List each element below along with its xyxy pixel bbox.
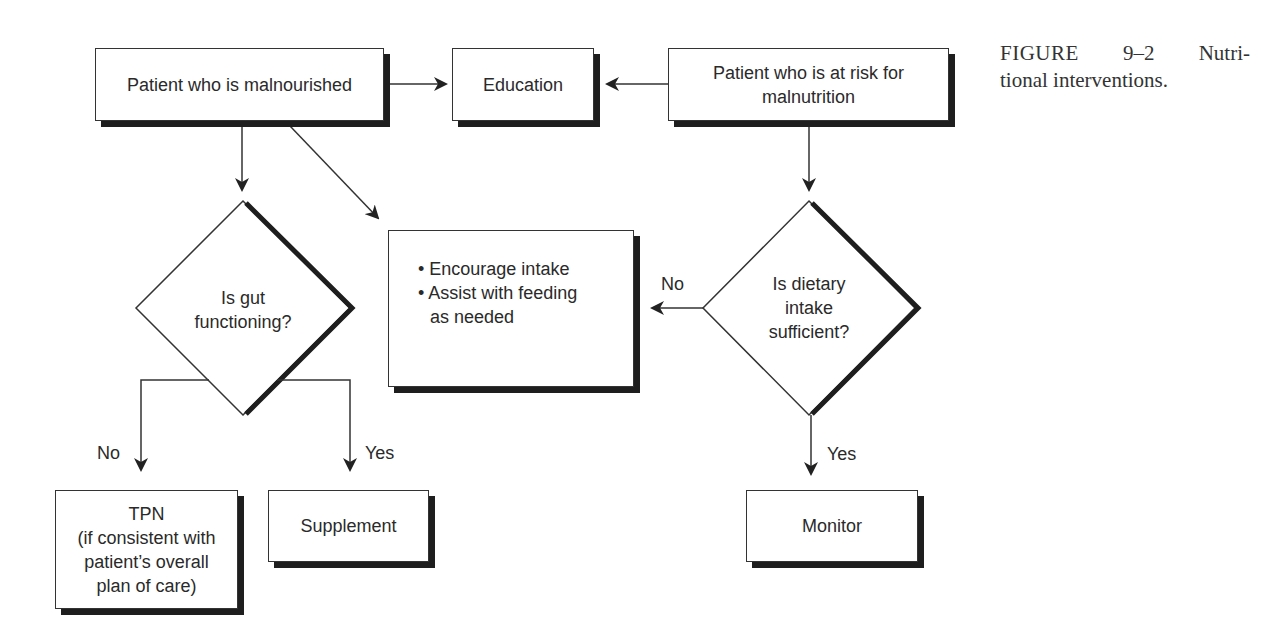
bullet-assist-feeding: • Assist with feeding xyxy=(418,281,577,305)
decision-gut-text: Is gut functioning? xyxy=(183,286,303,334)
figure-label: FIGURE xyxy=(1000,40,1079,67)
node-intake-actions-list: • Encourage intake • Assist with feeding… xyxy=(418,257,577,329)
edge-label-gut-no: No xyxy=(97,443,120,463)
node-tpn-line4: plan of care) xyxy=(96,574,196,598)
arrow-malnourished-to-intake xyxy=(290,126,378,218)
node-patient-malnourished: Patient who is malnourished xyxy=(95,48,384,121)
node-tpn-line2: (if consistent with xyxy=(77,526,215,550)
bullet-encourage-intake: • Encourage intake xyxy=(418,257,577,281)
decision-dietary-line3: sufficient? xyxy=(749,320,869,344)
node-tpn-line1: TPN xyxy=(129,502,165,526)
decision-dietary-line2: intake xyxy=(749,296,869,320)
node-education: Education xyxy=(452,48,594,121)
node-tpn: TPN (if consistent with patient’s overal… xyxy=(55,490,238,609)
decision-gut-line1: Is gut xyxy=(183,286,303,310)
node-patient-malnourished-label: Patient who is malnourished xyxy=(127,73,352,97)
decision-gut-line2: functioning? xyxy=(183,310,303,334)
figure-caption: FIGURE 9–2 Nutri- tional interventions. xyxy=(1000,40,1250,94)
figure-title-part1: Nutri- xyxy=(1199,40,1250,67)
node-monitor: Monitor xyxy=(746,490,918,562)
node-supplement-label: Supplement xyxy=(300,514,396,538)
node-patient-at-risk-line1: Patient who is at risk for xyxy=(713,61,904,85)
edge-label-dietary-no: No xyxy=(661,274,684,294)
node-supplement: Supplement xyxy=(268,490,429,562)
arrow-gut-yes xyxy=(277,380,350,470)
edge-label-gut-yes: Yes xyxy=(365,443,394,463)
node-patient-at-risk: Patient who is at risk for malnutrition xyxy=(668,48,949,121)
node-monitor-label: Monitor xyxy=(802,514,862,538)
figure-title-part2: tional interventions. xyxy=(1000,67,1250,94)
bullet-assist-feeding-cont: as needed xyxy=(418,305,577,329)
node-tpn-line3: patient’s overall xyxy=(84,550,209,574)
decision-dietary-text: Is dietary intake sufficient? xyxy=(749,272,869,344)
edge-label-dietary-yes: Yes xyxy=(827,444,856,464)
figure-number: 9–2 xyxy=(1123,40,1155,67)
node-education-label: Education xyxy=(483,73,563,97)
decision-dietary-line1: Is dietary xyxy=(749,272,869,296)
node-patient-at-risk-line2: malnutrition xyxy=(762,85,855,109)
arrow-gut-no xyxy=(141,380,209,470)
